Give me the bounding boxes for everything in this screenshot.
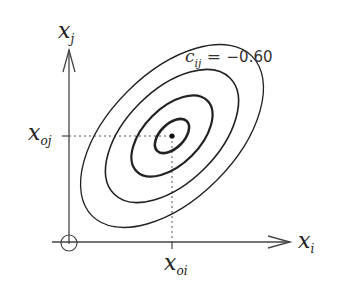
y-axis-label: xj: [58, 18, 74, 43]
center-point: [169, 133, 174, 138]
center-y-label: xoj: [28, 120, 51, 145]
center-x-label: xoi: [164, 250, 187, 275]
x-axis-label: xi: [298, 228, 314, 253]
correlation-label: cij = −0.60: [185, 46, 273, 66]
contour-diagram: [0, 0, 341, 291]
